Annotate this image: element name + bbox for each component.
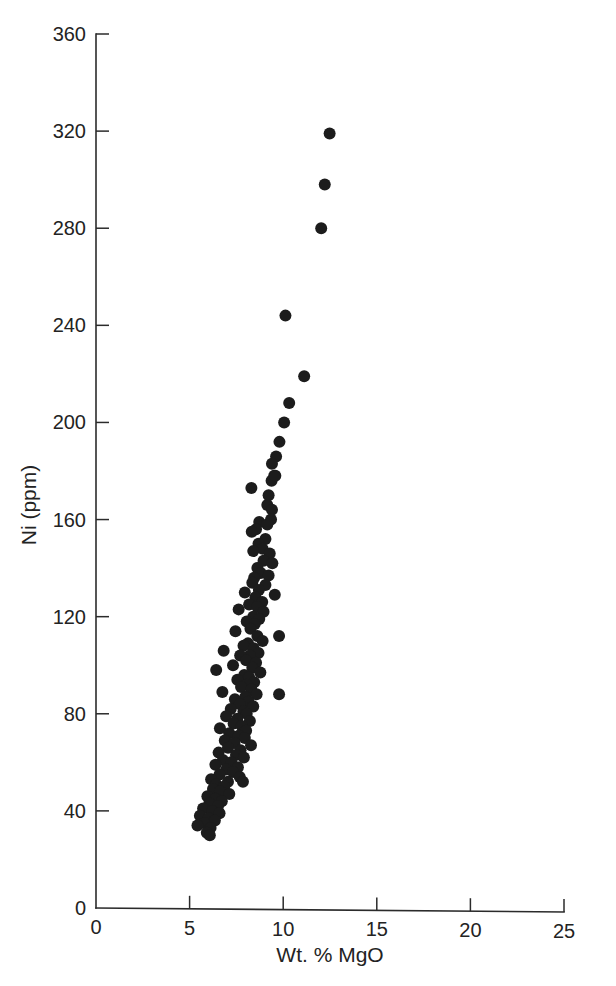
data-point: [298, 370, 310, 382]
y-axis: 04080120160200240280320360: [53, 23, 109, 919]
data-point: [229, 625, 241, 637]
data-point: [247, 545, 259, 557]
data-point: [266, 458, 278, 470]
y-axis-title: Ni (ppm): [17, 465, 40, 546]
data-point: [273, 688, 285, 700]
y-axis-tick-label: 0: [75, 897, 86, 919]
x-axis-tick-label: 5: [184, 917, 195, 939]
data-point: [266, 557, 278, 569]
data-point: [324, 128, 336, 140]
data-point: [245, 739, 257, 751]
data-point: [315, 222, 327, 234]
y-axis-tick-label: 320: [53, 120, 86, 142]
data-point: [261, 518, 273, 530]
scatter-plot-figure: 04080120160200240280320360 0510152025 Wt…: [0, 0, 616, 986]
y-axis-tick-label: 120: [53, 606, 86, 628]
data-point: [233, 603, 245, 615]
y-axis-tick-label: 40: [64, 800, 86, 822]
x-axis-tick-label: 0: [90, 916, 101, 938]
x-axis-title: Wt. % MgO: [276, 943, 383, 966]
y-axis-tick-label: 80: [64, 703, 86, 725]
x-axis-spine: [96, 908, 564, 912]
data-point: [278, 416, 290, 428]
data-points-layer: [191, 128, 335, 842]
data-point: [273, 630, 285, 642]
data-point: [246, 526, 258, 538]
data-point: [319, 179, 331, 191]
y-axis-tick-label: 360: [53, 23, 86, 45]
data-point: [245, 482, 257, 494]
y-axis-tick-label: 160: [53, 509, 86, 531]
data-point: [283, 397, 295, 409]
x-axis-tick-label: 10: [272, 918, 294, 940]
data-point: [191, 819, 203, 831]
data-point: [218, 645, 230, 657]
data-point: [279, 310, 291, 322]
x-axis-tick-label: 25: [553, 920, 575, 942]
data-point: [237, 776, 249, 788]
y-axis-tick-label: 280: [53, 217, 86, 239]
x-axis-tick-label: 20: [459, 919, 481, 941]
data-point: [273, 436, 285, 448]
data-point: [269, 589, 281, 601]
x-axis: 0510152025: [90, 896, 575, 942]
data-point: [216, 686, 228, 698]
y-axis-tick-label: 200: [53, 411, 86, 433]
data-point: [204, 829, 216, 841]
data-point: [269, 470, 281, 482]
y-axis-tick-label: 240: [53, 314, 86, 336]
data-point: [210, 664, 222, 676]
data-point: [227, 659, 239, 671]
data-point: [239, 586, 251, 598]
x-axis-tick-label: 15: [366, 918, 388, 940]
plot-canvas: 04080120160200240280320360 0510152025 Wt…: [0, 0, 616, 986]
